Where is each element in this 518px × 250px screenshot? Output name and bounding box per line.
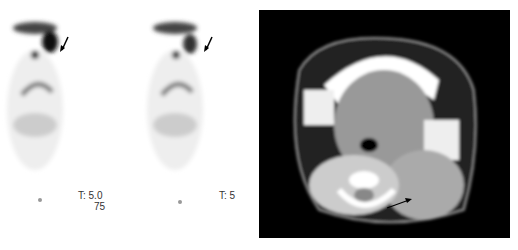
ct-axial-image bbox=[259, 10, 510, 238]
threshold-label: T: 5 bbox=[219, 190, 235, 201]
value-label: 75 bbox=[78, 201, 105, 212]
pet-images-panel: T: 5.0 75 T: 5 bbox=[0, 0, 258, 250]
pet-label-1: T: 5.0 75 bbox=[78, 190, 105, 212]
pet-label-2: T: 5 bbox=[219, 190, 235, 201]
pet-mip-2 bbox=[147, 22, 203, 170]
threshold-label: T: 5.0 bbox=[78, 190, 105, 201]
ct-image-panel bbox=[259, 10, 510, 238]
pet-mip-images bbox=[0, 0, 258, 250]
pet-mip-1 bbox=[7, 22, 63, 170]
